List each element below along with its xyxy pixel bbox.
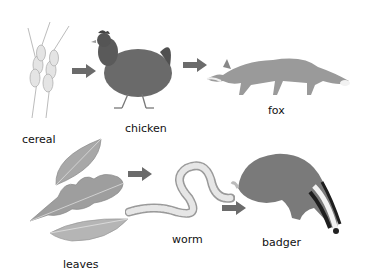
organism-label-badger: badger <box>262 236 301 249</box>
cereal-illustration <box>14 20 74 120</box>
leaves-illustration <box>28 137 133 245</box>
worm-illustration <box>125 160 235 222</box>
organism-label-fox: fox <box>268 104 285 117</box>
organism-label-chicken: chicken <box>125 122 167 135</box>
organism-label-worm: worm <box>172 233 203 246</box>
badger-illustration <box>230 150 345 238</box>
organism-label-leaves: leaves <box>63 258 99 271</box>
chicken-illustration <box>90 28 178 112</box>
fox-illustration <box>203 45 353 97</box>
